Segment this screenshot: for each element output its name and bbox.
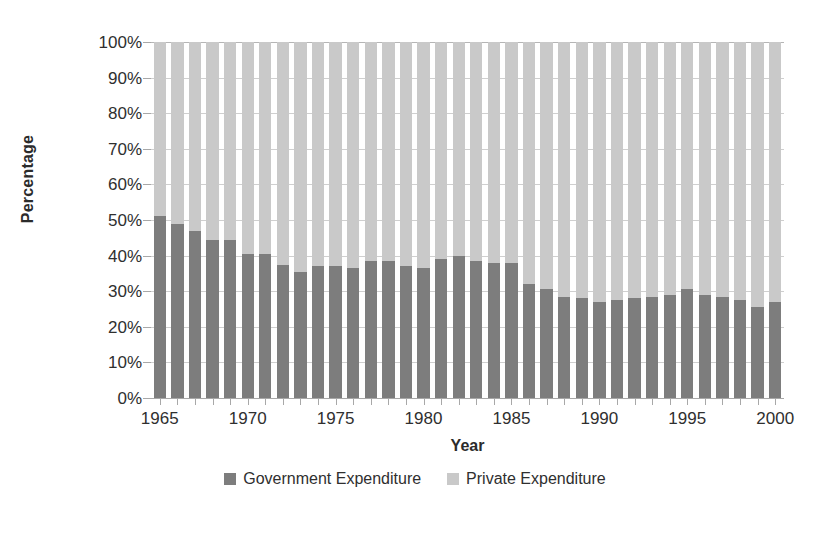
x-tick-mark	[599, 398, 600, 405]
bar-column	[382, 42, 394, 398]
bar-segment-government-expenditure	[206, 240, 218, 398]
bar-segment-government-expenditure	[242, 254, 254, 398]
x-tick-mark	[740, 398, 741, 405]
legend-entry[interactable]: Private Expenditure	[447, 470, 606, 488]
bar-segment-government-expenditure	[259, 254, 271, 398]
y-tick-label: 90%	[66, 69, 142, 86]
legend-entry[interactable]: Government Expenditure	[224, 470, 421, 488]
bar-segment-private-expenditure	[206, 42, 218, 240]
y-tick-label: 50%	[66, 212, 142, 229]
bar-column	[189, 42, 201, 398]
bar-column	[505, 42, 517, 398]
bar-segment-government-expenditure	[277, 265, 289, 399]
bar-column	[470, 42, 482, 398]
bar-segment-private-expenditure	[558, 42, 570, 297]
x-tick-mark	[424, 398, 425, 405]
bar-segment-government-expenditure	[294, 272, 306, 398]
bar-segment-government-expenditure	[593, 302, 605, 398]
bar-column	[716, 42, 728, 398]
bar-segment-private-expenditure	[664, 42, 676, 295]
x-tick-mark	[441, 398, 442, 405]
y-tick-label: 60%	[66, 176, 142, 193]
y-tick-mark	[143, 256, 151, 257]
bar-segment-government-expenditure	[365, 261, 377, 398]
y-tick-mark	[143, 42, 151, 43]
bar-segment-private-expenditure	[189, 42, 201, 231]
x-tick-mark	[617, 398, 618, 405]
bar-column	[171, 42, 183, 398]
x-axis-tick-labels: 19651970197519801985199019952000	[151, 409, 784, 437]
x-tick-mark	[248, 398, 249, 405]
bar-segment-government-expenditure	[523, 284, 535, 398]
bar-column	[453, 42, 465, 398]
bar-column	[488, 42, 500, 398]
legend-label: Private Expenditure	[466, 470, 606, 488]
bar-segment-private-expenditure	[435, 42, 447, 259]
x-tick-mark	[547, 398, 548, 405]
plot-area	[151, 42, 784, 398]
x-tick-mark	[494, 398, 495, 405]
x-tick-label: 1995	[647, 409, 727, 429]
x-tick-label: 1975	[296, 409, 376, 429]
x-tick-label: 1965	[120, 409, 200, 429]
bar-column	[259, 42, 271, 398]
y-tick-mark	[143, 327, 151, 328]
x-tick-mark	[353, 398, 354, 405]
bar-segment-government-expenditure	[540, 289, 552, 398]
bar-column	[628, 42, 640, 398]
x-tick-mark	[564, 398, 565, 405]
bar-segment-government-expenditure	[329, 266, 341, 398]
bar-segment-government-expenditure	[400, 266, 412, 398]
x-tick-mark	[652, 398, 653, 405]
bar-segment-private-expenditure	[171, 42, 183, 224]
bars-layer	[151, 42, 784, 398]
y-tick-label: 70%	[66, 140, 142, 157]
bar-segment-private-expenditure	[646, 42, 658, 297]
bar-segment-private-expenditure	[576, 42, 588, 298]
bar-segment-government-expenditure	[470, 261, 482, 398]
bar-segment-government-expenditure	[488, 263, 500, 398]
bar-segment-private-expenditure	[347, 42, 359, 268]
x-axis-title: Year	[151, 437, 784, 455]
y-tick-mark	[143, 220, 151, 221]
bar-segment-government-expenditure	[646, 297, 658, 398]
bar-segment-government-expenditure	[382, 261, 394, 398]
x-tick-mark	[511, 398, 512, 405]
x-tick-mark	[213, 398, 214, 405]
y-tick-mark	[143, 362, 151, 363]
bar-column	[681, 42, 693, 398]
bar-segment-private-expenditure	[523, 42, 535, 284]
bar-column	[646, 42, 658, 398]
bar-segment-private-expenditure	[769, 42, 781, 302]
bar-column	[347, 42, 359, 398]
y-tick-mark	[143, 184, 151, 185]
x-tick-mark	[195, 398, 196, 405]
bar-column	[417, 42, 429, 398]
x-tick-mark	[758, 398, 759, 405]
y-tick-label: 0%	[66, 390, 142, 407]
bar-segment-government-expenditure	[716, 297, 728, 398]
bar-segment-private-expenditure	[417, 42, 429, 268]
x-tick-mark	[705, 398, 706, 405]
y-tick-mark	[143, 113, 151, 114]
bar-segment-government-expenditure	[558, 297, 570, 398]
y-tick-label: 20%	[66, 318, 142, 335]
bar-segment-private-expenditure	[277, 42, 289, 265]
x-tick-mark	[635, 398, 636, 405]
bar-segment-private-expenditure	[593, 42, 605, 302]
bar-column	[593, 42, 605, 398]
bar-segment-private-expenditure	[242, 42, 254, 254]
x-tick-label: 1985	[471, 409, 551, 429]
x-tick-mark	[371, 398, 372, 405]
x-tick-mark	[722, 398, 723, 405]
bar-segment-government-expenditure	[769, 302, 781, 398]
y-tick-mark	[143, 78, 151, 79]
bar-segment-private-expenditure	[400, 42, 412, 266]
bar-segment-private-expenditure	[312, 42, 324, 266]
y-axis-tick-labels: 0%10%20%30%40%50%60%70%80%90%100%	[66, 42, 142, 398]
bar-segment-government-expenditure	[611, 300, 623, 398]
bar-segment-private-expenditure	[699, 42, 711, 295]
bar-column	[611, 42, 623, 398]
bar-segment-private-expenditure	[224, 42, 236, 240]
bar-column	[294, 42, 306, 398]
